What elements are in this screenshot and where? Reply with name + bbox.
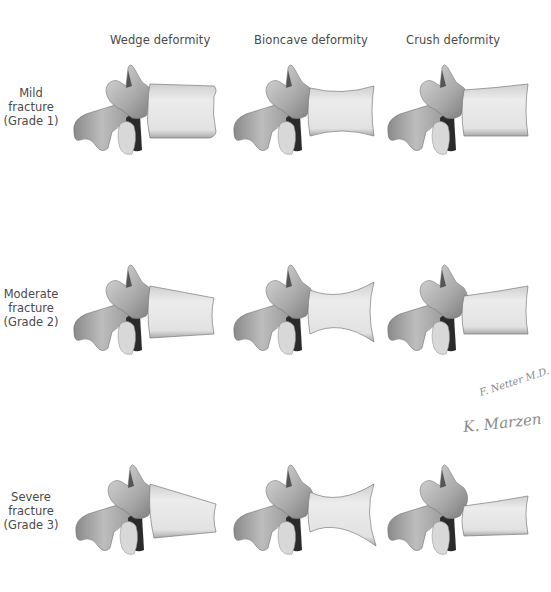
vertebra-moderate-wedge <box>68 262 218 357</box>
vertebra-severe-biconcave <box>228 462 378 557</box>
vertebra-severe-wedge <box>70 462 220 557</box>
row-label-line: (Grade 2) <box>0 315 62 329</box>
row-label-severe: Severe fracture (Grade 3) <box>0 490 62 532</box>
vertebra-mild-wedge <box>68 62 218 157</box>
row-label-line: Moderate <box>0 287 62 301</box>
column-header-wedge: Wedge deformity <box>110 33 210 47</box>
row-label-line: (Grade 3) <box>0 518 62 532</box>
column-header-biconcave: Bioncave deformity <box>254 33 368 47</box>
signature-netter: F. Netter M.D. <box>478 365 550 398</box>
signature-marzen: K. Marzen <box>462 410 542 436</box>
column-header-crush: Crush deformity <box>406 33 500 47</box>
vertebra-moderate-biconcave <box>228 262 378 357</box>
vertebra-severe-crush <box>382 462 532 557</box>
row-label-line: fracture <box>0 100 62 114</box>
row-label-moderate: Moderate fracture (Grade 2) <box>0 287 62 329</box>
vertebra-mild-biconcave <box>228 62 378 157</box>
row-label-line: Severe <box>0 490 62 504</box>
row-label-line: Mild <box>0 86 62 100</box>
row-label-line: fracture <box>0 504 62 518</box>
vertebra-mild-crush <box>382 62 532 157</box>
row-label-line: (Grade 1) <box>0 114 62 128</box>
row-label-mild: Mild fracture (Grade 1) <box>0 86 62 128</box>
vertebra-moderate-crush <box>382 262 532 357</box>
row-label-line: fracture <box>0 301 62 315</box>
